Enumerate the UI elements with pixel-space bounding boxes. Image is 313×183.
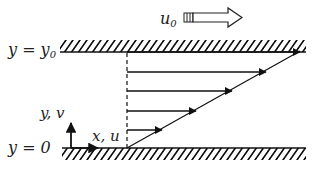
horizontal-axis-label: x, u [92, 127, 120, 145]
top-wall [60, 40, 306, 52]
linear-profile-line [127, 51, 300, 148]
plate-velocity-arrow-icon [184, 8, 242, 27]
plate-velocity-label: u0 [160, 9, 177, 29]
bottom-wall [62, 148, 306, 160]
bottom-wall-label: y = 0 [7, 138, 51, 157]
top-wall-label: y = y0 [7, 40, 57, 60]
couette-flow-diagram: u0 y = y0 y = 0 y, v x, u [0, 0, 313, 183]
velocity-profile-arrows [127, 52, 300, 130]
vertical-axis-label: y, v [39, 104, 65, 122]
